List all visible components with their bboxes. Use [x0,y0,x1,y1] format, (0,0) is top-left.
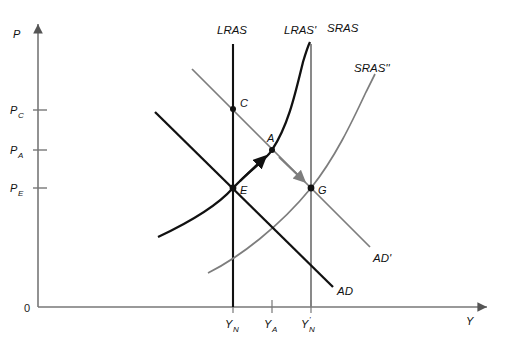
point-label-a: A [266,132,274,144]
x-tick-label-yn-sub: N [233,325,239,334]
y-tick-label-pa-base: P [10,144,18,156]
y-tick-label-pc-base: P [10,104,18,116]
point-g-marker [308,185,315,192]
y-tick-label-pc-sub: C [18,111,24,120]
x-tick-label-ynprime-sub: N [309,325,315,334]
point-c-marker [230,106,236,112]
y-tick-label-pa-sub: A [17,151,23,160]
y-tick-label-pa: P A [10,144,23,160]
economics-diagram-figure: C A E G LRAS LRAS' SRAS SRAS'' AD AD' P … [0,0,507,344]
curve-label-lras-prime: LRAS' [284,24,317,36]
y-tick-label-pc: P C [10,104,24,120]
point-a-marker [269,147,275,153]
point-label-g: G [318,184,327,196]
x-tick-label-yn: Y N [225,318,239,334]
curve-label-lras: LRAS [217,24,247,36]
curve-label-ad-prime: AD' [372,252,392,264]
curve-label-sras: SRAS [327,22,359,34]
curve-label-sras-double-prime: SRAS'' [354,62,391,74]
arrow-e-to-a [240,157,265,181]
point-label-c: C [240,97,248,109]
x-tick-label-ya-base: Y [264,318,272,330]
point-label-e: E [240,184,248,196]
curve-label-ad: AD [336,285,353,297]
x-tick-label-ya: Y A [264,318,277,334]
x-tick-label-ya-sub: A [271,325,277,334]
y-tick-label-pe-sub: E [18,189,24,198]
curve-ad [155,112,333,287]
y-axis-ticks [33,110,47,188]
arrow-a-to-g [279,157,304,181]
x-tick-label-ynprime: Y ' N [301,315,315,334]
x-tick-label-yn-base: Y [225,318,233,330]
axis-group [38,24,487,307]
x-tick-label-ynprime-mark: ' [309,315,311,324]
diagram-canvas: C A E G LRAS LRAS' SRAS SRAS'' AD AD' P … [0,0,507,344]
origin-label: 0 [24,302,30,314]
x-tick-label-ynprime-base: Y [301,318,309,330]
y-axis-label: P [13,28,21,40]
y-tick-label-pe-base: P [10,182,18,194]
point-e-marker [230,185,237,192]
y-tick-label-pe: P E [10,182,24,198]
x-axis-label: Y [466,315,474,327]
